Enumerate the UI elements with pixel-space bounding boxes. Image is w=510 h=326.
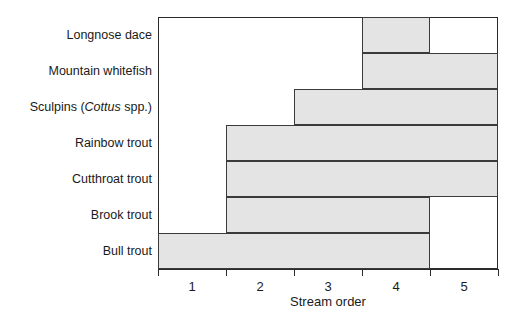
x-axis-line bbox=[158, 269, 498, 270]
x-tick-label: 2 bbox=[240, 279, 280, 294]
category-label: Rainbow trout bbox=[0, 136, 152, 150]
bar bbox=[226, 125, 498, 161]
x-tick bbox=[430, 269, 431, 276]
category-label: Sculpins (Cottus spp.) bbox=[0, 100, 152, 114]
x-tick bbox=[362, 269, 363, 276]
x-axis-title: Stream order bbox=[158, 294, 498, 309]
category-label: Brook trout bbox=[0, 208, 152, 222]
bar bbox=[362, 53, 498, 89]
x-tick-label: 5 bbox=[444, 279, 484, 294]
x-tick bbox=[498, 269, 499, 276]
stream-order-bar-chart: Longnose daceMountain whitefishSculpins … bbox=[0, 0, 510, 326]
bar bbox=[294, 89, 498, 125]
x-tick bbox=[226, 269, 227, 276]
bar bbox=[158, 233, 430, 269]
x-tick-label: 1 bbox=[172, 279, 212, 294]
category-label: Mountain whitefish bbox=[0, 64, 152, 78]
x-axis: 12345 bbox=[158, 269, 498, 271]
x-tick-label: 4 bbox=[376, 279, 416, 294]
category-axis: Longnose daceMountain whitefishSculpins … bbox=[0, 0, 152, 326]
x-tick bbox=[158, 269, 159, 276]
x-tick-label: 3 bbox=[308, 279, 348, 294]
category-label: Cutthroat trout bbox=[0, 172, 152, 186]
bars-layer bbox=[158, 17, 498, 269]
category-label: Longnose dace bbox=[0, 28, 152, 42]
category-label: Bull trout bbox=[0, 244, 152, 258]
bar bbox=[226, 161, 498, 197]
bar bbox=[362, 17, 430, 53]
bar bbox=[226, 197, 430, 233]
x-tick bbox=[294, 269, 295, 276]
